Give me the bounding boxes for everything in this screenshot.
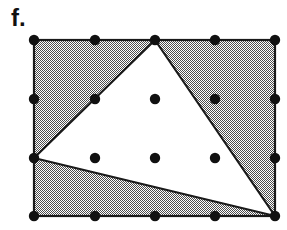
- lattice-point: [29, 94, 39, 104]
- lattice-point: [210, 35, 220, 45]
- lattice-point: [150, 35, 160, 45]
- lattice-point: [270, 211, 280, 221]
- lattice-point: [90, 153, 100, 163]
- lattice-point: [29, 211, 39, 221]
- lattice-point: [29, 35, 39, 45]
- figure-container: f.: [0, 0, 287, 230]
- lattice-point: [210, 94, 220, 104]
- lattice-point: [150, 211, 160, 221]
- lattice-point: [150, 153, 160, 163]
- lattice-triangle-diagram: [0, 0, 287, 230]
- lattice-point: [210, 211, 220, 221]
- lattice-point: [210, 153, 220, 163]
- lattice-point: [150, 94, 160, 104]
- lattice-point: [90, 211, 100, 221]
- lattice-point: [270, 94, 280, 104]
- lattice-point: [270, 153, 280, 163]
- lattice-point: [90, 94, 100, 104]
- lattice-point: [90, 35, 100, 45]
- lattice-point: [270, 35, 280, 45]
- lattice-point: [29, 153, 39, 163]
